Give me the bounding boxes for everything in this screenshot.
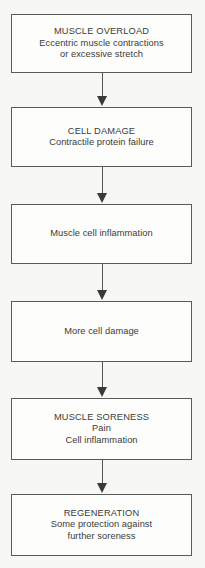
node-heading: REGENERATION xyxy=(64,508,140,519)
node-heading: MUSCLE SORENESS xyxy=(54,412,149,423)
arrow-head-icon xyxy=(97,193,107,203)
flowchart-node-muscle-cell-inflammation: Muscle cell inflammation xyxy=(11,204,192,264)
arrow-head-icon xyxy=(97,483,107,493)
flowchart-node-regeneration: REGENERATIONSome protection againstfurth… xyxy=(11,494,192,556)
node-heading: CELL DAMAGE xyxy=(68,126,135,137)
node-text-line: Contractile protein failure xyxy=(49,137,154,148)
node-text-line: Pain xyxy=(92,423,111,434)
node-text-line: or excessive stretch xyxy=(60,49,143,60)
arrow-more-damage-to-soreness xyxy=(0,362,205,398)
arrow-head-icon xyxy=(97,290,107,300)
arrow-line xyxy=(102,167,103,195)
node-text-line: Some protection against xyxy=(51,519,152,530)
flowchart-node-muscle-soreness: MUSCLE SORENESSPainCell inflammation xyxy=(11,398,192,460)
node-text-line: Cell inflammation xyxy=(65,435,137,446)
node-text-line: Eccentric muscle contractions xyxy=(39,38,163,49)
arrow-inflammation-to-more-damage xyxy=(0,264,205,301)
arrow-head-icon xyxy=(97,96,107,106)
arrow-line xyxy=(102,73,103,98)
flowchart-node-more-cell-damage: More cell damage xyxy=(11,301,192,362)
arrow-overload-to-damage xyxy=(0,73,205,107)
arrow-line xyxy=(102,362,103,389)
arrow-damage-to-inflammation xyxy=(0,167,205,204)
node-heading: MUSCLE OVERLOAD xyxy=(54,26,149,37)
flowchart-node-muscle-overload: MUSCLE OVERLOADEccentric muscle contract… xyxy=(11,14,192,73)
node-text-line: More cell damage xyxy=(64,326,139,337)
node-text-line: Muscle cell inflammation xyxy=(50,228,152,239)
arrow-head-icon xyxy=(97,387,107,397)
node-text-line: further soreness xyxy=(68,531,136,542)
flowchart-node-cell-damage: CELL DAMAGEContractile protein failure xyxy=(11,107,192,167)
arrow-line xyxy=(102,460,103,485)
arrow-line xyxy=(102,264,103,292)
arrow-soreness-to-regeneration xyxy=(0,460,205,494)
flowchart-diagram: MUSCLE OVERLOADEccentric muscle contract… xyxy=(0,0,205,568)
